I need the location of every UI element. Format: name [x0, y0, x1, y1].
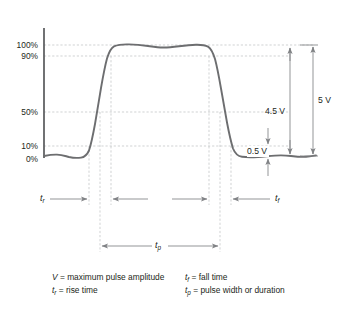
fall-time-label: tf	[275, 194, 279, 203]
legend-text-amplitude: = maximum pulse amplitude	[58, 272, 165, 282]
legend-row-pulse-width: tp = pulse width or duration	[185, 284, 285, 297]
pulse-waveform-figure: 100% 90% 50% 10% 0% 5 V 4.5 V 0.5 V tr t…	[0, 0, 350, 312]
legend-text-fall-time: = fall time	[189, 272, 227, 282]
waveform-trace	[44, 44, 316, 158]
legend-row-amplitude: V = maximum pulse amplitude	[52, 271, 164, 284]
y-tick-50: 50%	[4, 108, 38, 116]
pulse-width-subscript: p	[158, 244, 162, 251]
voltage-label-5v: 5 V	[318, 96, 331, 105]
gridlines	[44, 45, 314, 146]
legend-row-rise-time: tr = rise time	[52, 284, 164, 297]
fall-time-subscript: f	[278, 197, 280, 204]
legend-text-rise-time: = rise time	[56, 285, 97, 295]
rise-time-subscript: r	[43, 197, 45, 204]
legend-text-pulse-width: = pulse width or duration	[191, 285, 285, 295]
voltage-label-0-5v: 0.5 V	[247, 147, 267, 156]
voltage-label-4-5v: 4.5 V	[265, 107, 285, 116]
legend-row-fall-time: tf = fall time	[185, 271, 285, 284]
y-tick-10: 10%	[4, 142, 38, 150]
waveform-drawing	[0, 0, 350, 312]
time-marker-lines	[89, 56, 231, 252]
y-tick-100: 100%	[4, 41, 38, 49]
legend-column-right: tf = fall time tp = pulse width or durat…	[185, 271, 285, 297]
y-tick-90: 90%	[4, 52, 38, 60]
y-tick-0: 0%	[4, 155, 38, 163]
rise-time-label: tr	[40, 194, 45, 203]
legend-column-left: V = maximum pulse amplitude tr = rise ti…	[52, 271, 164, 297]
pulse-width-label: tp	[155, 241, 161, 250]
